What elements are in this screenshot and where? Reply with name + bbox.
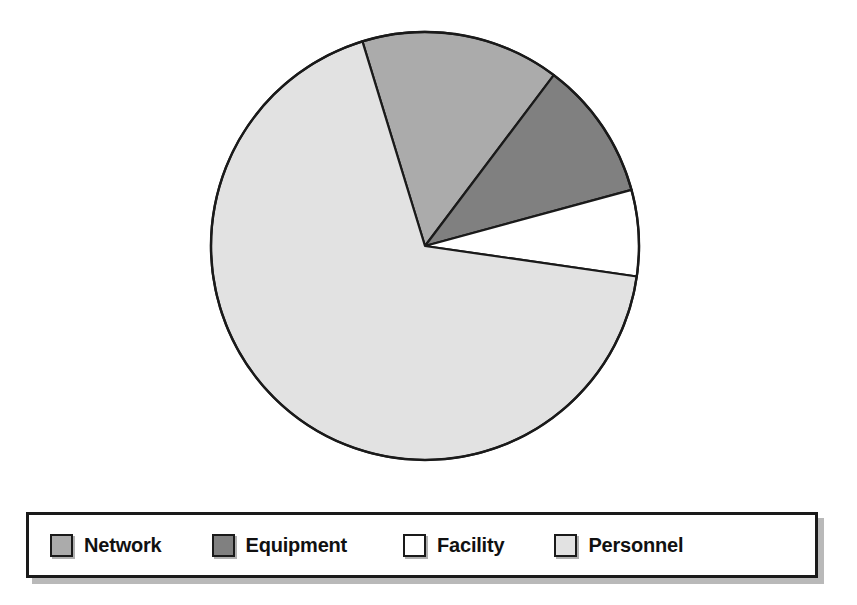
legend-item-equipment[interactable]: Equipment <box>212 515 348 575</box>
legend-label-facility: Facility <box>437 534 504 557</box>
legend-swatch-personnel <box>554 534 577 557</box>
legend-label-network: Network <box>84 534 162 557</box>
legend-label-equipment: Equipment <box>246 534 348 557</box>
pie-chart-area <box>0 0 857 495</box>
legend-label-personnel: Personnel <box>588 534 683 557</box>
pie-chart-svg <box>0 0 857 495</box>
legend-swatch-network <box>50 534 73 557</box>
legend-item-facility[interactable]: Facility <box>403 515 504 575</box>
legend-swatch-facility <box>403 534 426 557</box>
legend-item-personnel[interactable]: Personnel <box>554 515 683 575</box>
legend-swatch-network-wrap <box>50 534 73 557</box>
legend-swatch-facility-wrap <box>403 534 426 557</box>
legend-item-network[interactable]: Network <box>50 515 162 575</box>
chart-legend: Network Equipment Facility Personnel <box>26 512 818 578</box>
chart-canvas: Network Equipment Facility Personnel <box>0 0 857 605</box>
pie-slice-group <box>211 32 639 460</box>
legend-swatch-equipment-wrap <box>212 534 235 557</box>
legend-swatch-equipment <box>212 534 235 557</box>
legend-swatch-personnel-wrap <box>554 534 577 557</box>
